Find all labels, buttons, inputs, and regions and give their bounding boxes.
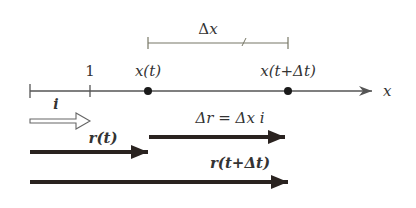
unit-vector-label: i: [53, 96, 58, 112]
kinematics-diagram: Δx x 1 x(t) x(t+Δt) i r(t) Δr = Δx i r(t…: [0, 0, 416, 208]
point-x-t-dt: [284, 87, 292, 95]
vector-r-t-label: r(t): [88, 129, 117, 147]
bracket-slash-mark: [242, 38, 246, 46]
point-x-t: [144, 87, 152, 95]
delta-x-label: Δx: [198, 20, 218, 38]
unit-tick-label: 1: [85, 62, 95, 80]
point-x-t-label: x(t): [135, 62, 161, 80]
unit-vector-i: [30, 113, 90, 129]
vector-delta-r-label: Δr = Δx i: [195, 109, 265, 127]
x-axis: [30, 84, 372, 98]
vector-r-t-dt-label: r(t+Δt): [210, 154, 270, 172]
x-axis-label: x: [383, 82, 392, 100]
delta-x-bracket: [148, 37, 288, 49]
point-x-t-dt-label: x(t+Δt): [260, 62, 316, 80]
